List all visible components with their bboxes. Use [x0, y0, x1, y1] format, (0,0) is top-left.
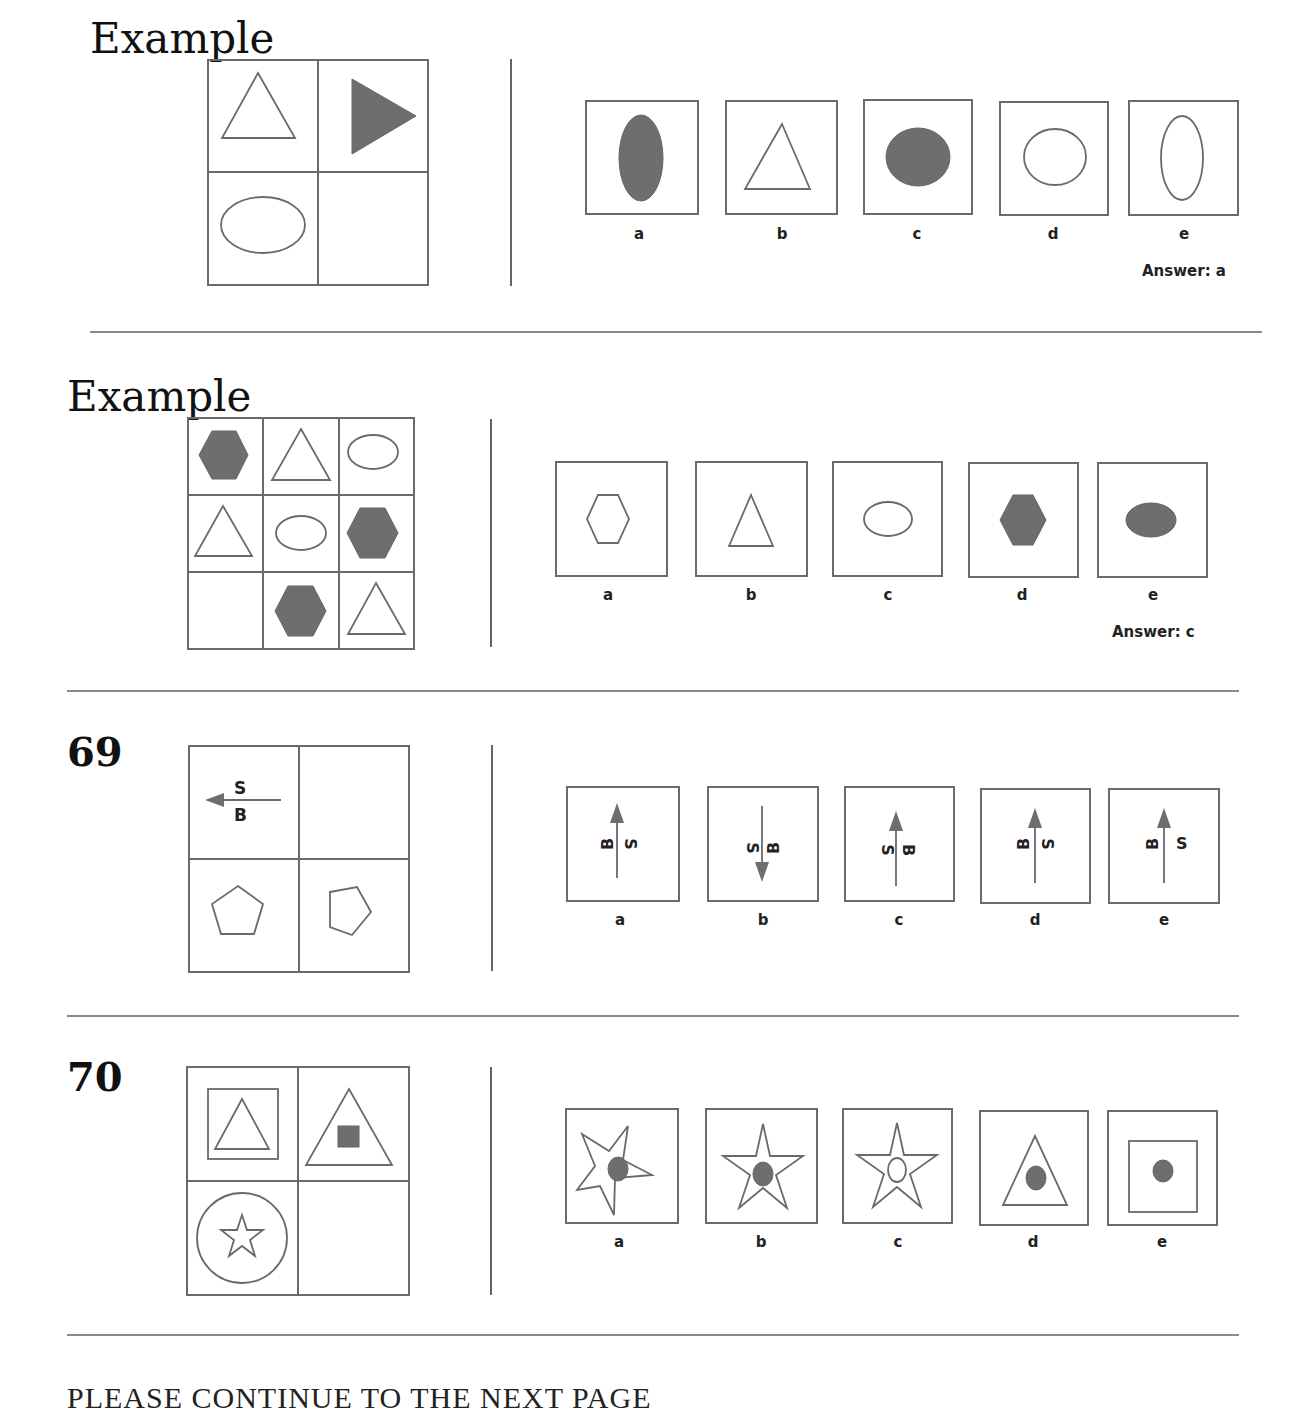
answer-text: Answer: a: [1142, 262, 1226, 280]
option-e-arrow-up-icon[interactable]: B S: [566, 786, 1226, 906]
ellipse-icon: [207, 59, 429, 286]
answer-text: Answer: c: [1112, 623, 1195, 641]
option-label-b: b: [762, 225, 802, 243]
option-label-a: a: [599, 1233, 639, 1251]
section-divider-horizontal: [67, 690, 1239, 692]
continue-footer-text: PLEASE CONTINUE TO THE NEXT PAGE: [67, 1381, 652, 1412]
option-label-a: a: [588, 586, 628, 604]
option-label-e: e: [1142, 1233, 1182, 1251]
svg-text:B: B: [1143, 838, 1162, 850]
option-label-e: e: [1133, 586, 1173, 604]
option-label-b: b: [731, 586, 771, 604]
option-label-b: b: [743, 911, 783, 929]
option-label-c: c: [878, 1233, 918, 1251]
svg-text:S: S: [1176, 834, 1188, 853]
question-70-matrix: [186, 1066, 410, 1296]
option-label-d: d: [1033, 225, 1073, 243]
section-divider-horizontal: [67, 1015, 1239, 1017]
rotated-pentagon-icon: [188, 745, 410, 973]
option-label-c: c: [868, 586, 908, 604]
option-label-d: d: [1013, 1233, 1053, 1251]
circle-with-star-icon: [186, 1066, 410, 1296]
question-70-options: [565, 1108, 1225, 1228]
section-divider-horizontal: [90, 331, 1262, 333]
section-heading-example-1: Example: [90, 18, 274, 60]
option-label-e: e: [1144, 911, 1184, 929]
option-label-a: a: [619, 225, 659, 243]
option-label-d: d: [1002, 586, 1042, 604]
option-label-c: c: [879, 911, 919, 929]
section-divider-horizontal: [67, 1334, 1239, 1336]
example-1-matrix: [207, 59, 429, 286]
triangle-icon: [187, 417, 415, 650]
option-label-c: c: [897, 225, 937, 243]
question-number: 69: [67, 732, 123, 772]
question-number: 70: [67, 1057, 123, 1097]
option-e-square-with-dot-icon[interactable]: [565, 1108, 1225, 1228]
question-69-options: B S S B S B B S B S: [566, 786, 1226, 906]
option-label-a: a: [600, 911, 640, 929]
example-2-matrix: [187, 417, 415, 650]
section-divider-vertical: [490, 419, 492, 647]
section-divider-vertical: [491, 745, 493, 971]
section-divider-vertical: [490, 1067, 492, 1295]
section-heading-example-2: Example: [67, 376, 251, 418]
option-label-b: b: [741, 1233, 781, 1251]
option-label-e: e: [1164, 225, 1204, 243]
section-divider-vertical: [510, 59, 512, 286]
question-69-matrix: S B: [188, 745, 410, 973]
option-label-d: d: [1015, 911, 1055, 929]
